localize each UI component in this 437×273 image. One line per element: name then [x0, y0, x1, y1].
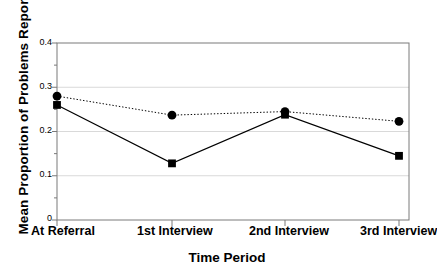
- series-line-circle: [57, 96, 399, 121]
- data-point-circle: [53, 92, 62, 101]
- data-point-circle: [395, 117, 404, 126]
- axis-ticks: [52, 43, 399, 226]
- series-lines: [57, 96, 399, 163]
- data-point-square: [395, 152, 403, 160]
- data-point-square: [53, 101, 61, 109]
- data-point-circle: [168, 111, 177, 120]
- data-point-square: [281, 111, 289, 119]
- data-point-square: [168, 159, 176, 167]
